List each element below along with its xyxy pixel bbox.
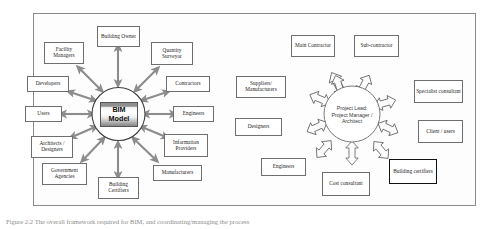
node-designers: Designers [235,118,282,136]
node-building-owner: Building Owner [97,26,140,47]
project-lead-hub-label: Project Lead: Project Manager / Architec… [328,101,376,129]
node-engineers: Engineers [173,106,214,122]
bim-model-core: BIM Model [100,102,138,127]
node-engineers-right: Engineers [261,158,306,176]
node-manufacturers: Manufacturers [153,165,202,181]
node-developers: Developers [27,76,69,92]
node-contractors: Contractors [166,76,210,92]
node-sub-contractor: Sub-contractor [354,35,399,57]
figure-caption: Figure 2.2 The overall framework require… [6,218,476,225]
bim-core-line2: Model [109,114,130,123]
node-main-contractor: Main Contractor [291,35,335,57]
node-users: Users [25,106,62,122]
figure-container: BIM Model Building Owner Facility Manage… [0,0,487,229]
node-building-certifiers-right: Building certifiers [389,159,437,184]
node-architects-designers: Architects / Designers [31,136,73,158]
node-quantity-surveyor: Quantity Surveyor [151,42,193,65]
node-facility-managers: Facility Managers [44,42,84,64]
node-specialist-consultant: Specialist consultant [414,80,463,103]
node-client-users: Client / users [418,120,463,143]
node-cost-consultant: Cost consultant [322,172,370,196]
node-building-certifiers: Building Certifiers [98,177,139,199]
node-information-providers: Information Providers [164,134,208,157]
node-government-agencies: Government Agencies [42,163,87,185]
node-suppliers-manufacturers: Suppliers/ Manufacturers [236,76,286,98]
